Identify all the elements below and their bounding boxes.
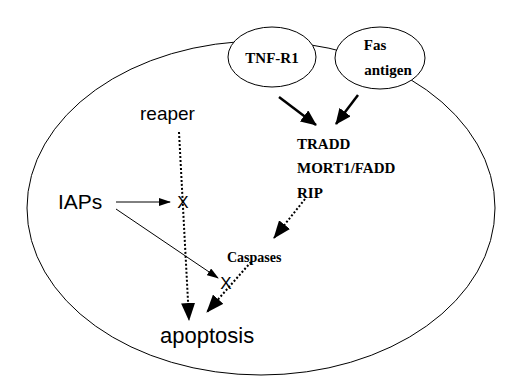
apoptosis-label: apoptosis: [160, 323, 254, 348]
iaps-label: IAPs: [58, 190, 102, 213]
arrow-rip-to-caspases: [274, 199, 305, 238]
arrow-iaps-to-block2: [116, 209, 218, 278]
receptor-fas-antigen: Fas antigen: [335, 27, 425, 89]
arrow-reaper-to-apoptosis: [179, 132, 189, 320]
receptor-tnf-r1: TNF-R1: [228, 27, 316, 87]
reaper-label: reaper: [140, 103, 196, 124]
adaptor-tradd: TRADD: [297, 136, 351, 152]
adaptor-mort1-fadd: MORT1/FADD: [297, 160, 396, 176]
tnf-r1-label: TNF-R1: [245, 50, 298, 66]
caspases-label: Caspases: [227, 250, 282, 265]
apoptosis-pathway-diagram: TNF-R1 Fas antigen TRADD MORT1/FADD RIP …: [0, 0, 515, 390]
arrow-fas-to-adaptors: [336, 95, 358, 124]
adaptor-rip: RIP: [297, 185, 323, 201]
fas-label-line1: Fas: [364, 37, 387, 53]
fas-label-line2: antigen: [364, 62, 412, 78]
arrow-tnf-to-adaptors: [279, 97, 316, 125]
block-mark-2: X: [220, 274, 231, 293]
block-mark-1: X: [177, 193, 188, 212]
